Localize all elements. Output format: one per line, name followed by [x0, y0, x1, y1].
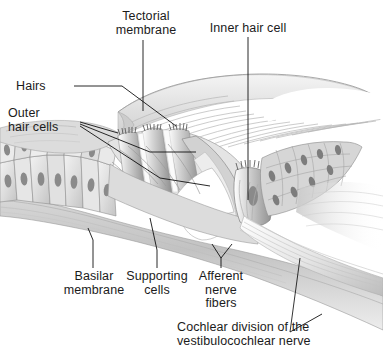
label-outer-hair-cells: Outer hair cells	[8, 107, 82, 134]
label-basilar-membrane: Basilar membrane	[56, 270, 132, 297]
anatomical-figure: Tectorial membrane Inner hair cell Hairs…	[0, 0, 383, 356]
label-hairs: Hairs	[16, 80, 72, 94]
label-cochlear-division: Cochlear division of the vestibulocochle…	[177, 321, 337, 348]
label-afferent-nerve-fibers: Afferent nerve fibers	[193, 270, 249, 311]
label-inner-hair-cell: Inner hair cell	[205, 22, 291, 36]
label-supporting-cells: Supporting cells	[124, 270, 190, 297]
organ-of-corti-illustration	[0, 0, 383, 356]
label-tectorial-membrane: Tectorial membrane	[104, 10, 188, 37]
leader-basilar-membrane	[88, 228, 93, 268]
spiral-ganglion-haze	[296, 182, 383, 252]
